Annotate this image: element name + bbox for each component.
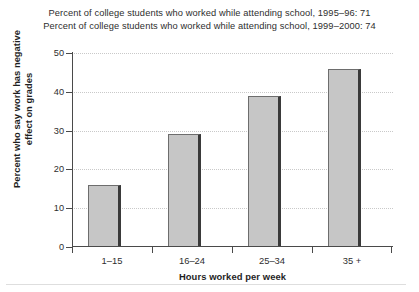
x-tick-label-1-15: 1–15	[67, 256, 157, 266]
x-tick-2	[232, 247, 233, 253]
y-tick-40	[66, 92, 72, 93]
x-tick-label-35-plus: 35 +	[307, 256, 397, 266]
y-tick-10	[66, 208, 72, 209]
gridline-50	[72, 53, 393, 54]
y-axis-title-line-2: effect on grades	[23, 19, 35, 199]
x-tick-3	[312, 247, 313, 253]
y-tick-label-0: 0	[42, 243, 64, 252]
chart-title-line-2: Percent of college students who worked w…	[0, 20, 419, 33]
chart-figure: Percent of college students who worked w…	[0, 0, 419, 292]
x-tick-label-16-24: 16–24	[147, 256, 237, 266]
y-axis-title-line-1: Percent who say work has negative	[11, 19, 23, 199]
plot-area	[72, 53, 393, 247]
x-tick-label-25-34: 25–34	[227, 256, 317, 266]
x-tick-4	[391, 247, 392, 253]
y-tick-30	[66, 131, 72, 132]
bar-1-15	[88, 185, 121, 247]
bar-25-34	[248, 96, 281, 247]
x-tick-1	[152, 247, 153, 253]
y-tick-label-50: 50	[42, 49, 64, 58]
y-tick-label-40: 40	[42, 88, 64, 97]
y-tick-label-10: 10	[42, 204, 64, 213]
chart-title-line-1: Percent of college students who worked w…	[0, 7, 419, 20]
y-tick-20	[66, 169, 72, 170]
bar-35-plus	[328, 69, 361, 247]
y-tick-50	[66, 53, 72, 54]
page-bottom-rule	[6, 284, 406, 285]
y-tick-label-20: 20	[42, 165, 64, 174]
bar-16-24	[168, 134, 201, 247]
y-axis-line	[72, 52, 73, 248]
y-axis-title: Percent who say work has negative effect…	[11, 19, 35, 199]
x-axis-title: Hours worked per week	[72, 271, 393, 282]
x-tick-0	[72, 247, 73, 253]
chart-title-block: Percent of college students who worked w…	[0, 7, 419, 33]
y-tick-label-30: 30	[42, 127, 64, 136]
